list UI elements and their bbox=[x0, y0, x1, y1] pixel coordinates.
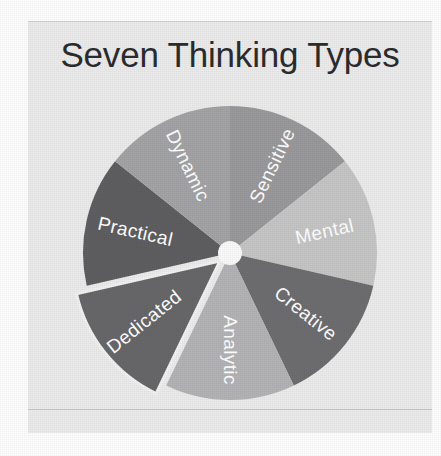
pie-center-hub bbox=[218, 241, 242, 265]
panel-bottom-divider bbox=[28, 409, 432, 410]
figure-canvas: Seven Thinking Types SensitiveMentalCrea… bbox=[0, 0, 441, 456]
pie-slice-label: Analytic bbox=[220, 315, 241, 385]
pie-chart: SensitiveMentalCreativeAnalyticDedicated… bbox=[28, 21, 432, 433]
pie-chart-svg: SensitiveMentalCreativeAnalyticDedicated… bbox=[28, 21, 432, 433]
infographic-panel: Seven Thinking Types SensitiveMentalCrea… bbox=[28, 21, 432, 433]
